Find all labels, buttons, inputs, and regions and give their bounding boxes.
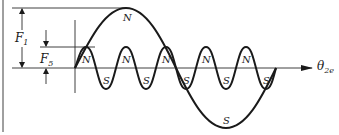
harmonic-peak-label: N [161,54,172,65]
fundamental-peak-label: N [122,12,133,23]
harmonic-peak-label: N [121,54,132,65]
harmonic-peak-label: N [81,54,92,65]
harmonic-trough-label: S [263,75,270,86]
harmonic-trough-label: S [103,75,110,86]
axis-label: θ2e [317,59,334,75]
harmonic-peak-label: N [201,54,212,65]
mmf-waveform-diagram: N S N N N N N S S S S S F1 F5 θ2e [0,0,339,135]
f5-label: F5 [39,52,53,68]
harmonic-trough-label: S [143,75,150,86]
harmonic-trough-label: S [223,75,230,86]
f1-label: F1 [14,31,28,47]
harmonic-trough-label: S [183,75,190,86]
harmonic-peak-label: N [241,54,252,65]
fundamental-trough-label: S [223,115,230,126]
